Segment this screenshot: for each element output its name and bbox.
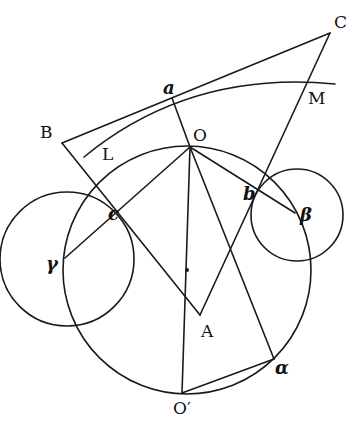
line-a-O [172,98,190,147]
label-O: O [193,125,207,145]
geometry-diagram: C a B M L O b β c γ A O′ α [0,0,358,427]
label-beta: β [299,204,312,225]
label-M: M [308,88,325,108]
label-a: a [163,77,175,98]
label-O-prime: O′ [173,398,191,418]
arc-L-a-M [84,82,335,157]
circle-beta [251,169,343,261]
label-C: C [334,12,347,32]
label-gamma: γ [46,253,59,274]
chord-O-prime-alpha [182,359,274,393]
center-dot [185,268,189,272]
label-alpha: α [275,357,289,378]
diagram-canvas: C a B M L O b β c γ A O′ α [0,0,358,427]
line-B-A [62,143,200,315]
label-c: c [108,203,119,224]
label-B: B [40,122,53,142]
label-L: L [102,144,113,164]
label-A: A [200,321,214,341]
label-b: b [243,183,256,204]
